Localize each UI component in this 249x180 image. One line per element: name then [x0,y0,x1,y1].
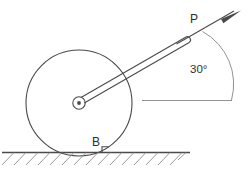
handle-rod-upper-edge [81,37,186,98]
handle-rod-lower-edge [84,43,189,104]
hatch-line [38,153,50,166]
hatch-line [122,153,134,166]
hatch-line [26,153,38,166]
hatch-line [110,153,122,166]
hatch-line [14,153,26,166]
force-arrow-p [177,11,242,44]
hatch-line [74,153,86,166]
handle-rod [81,37,190,103]
wheel-hub [73,97,85,109]
hatch-line [178,153,186,161]
force-arrow-shaft [177,11,235,44]
hatch-line [170,153,182,166]
hatch-line [2,153,14,166]
angle-label: 30° [190,63,207,75]
hatch-line [50,153,62,166]
hatch-line [146,153,158,166]
hatch-line [158,153,170,166]
hatch-line [134,153,146,166]
contact-point-label-b: B [92,135,100,149]
hatch-line [98,153,110,166]
mechanics-figure: P B 30° [0,0,249,180]
force-label-p: P [190,12,198,26]
hub-center-dot [77,101,81,105]
figure-canvas: P B 30° [0,0,249,180]
